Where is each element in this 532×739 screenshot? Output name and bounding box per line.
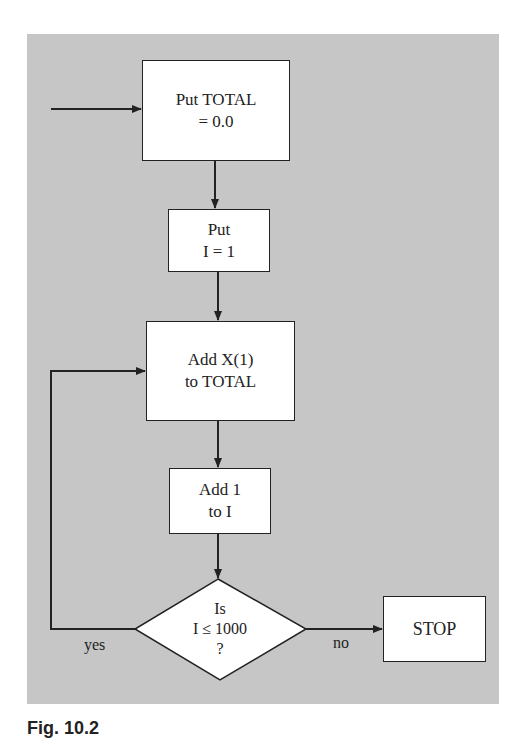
node-stop: STOP <box>383 596 486 662</box>
node-init-total-line2: = 0.0 <box>198 111 233 133</box>
edge-label-no: no <box>333 634 349 652</box>
figure-caption: Fig. 10.2 <box>27 718 99 739</box>
node-inc-i-line2: to I <box>208 501 231 523</box>
node-add-x-line1: Add X(1) <box>188 349 254 371</box>
arrow-yes-loop <box>51 371 145 629</box>
node-init-i-line1: Put <box>208 219 231 241</box>
node-init-total: Put TOTAL = 0.0 <box>142 60 290 161</box>
node-decision-text: Is I ≤ 1000 ? <box>170 599 270 659</box>
edge-label-yes: yes <box>84 636 105 654</box>
node-stop-label: STOP <box>413 618 457 640</box>
node-add-x: Add X(1) to TOTAL <box>146 321 295 421</box>
node-decision-line2: I ≤ 1000 <box>170 619 270 639</box>
node-decision-line3: ? <box>170 639 270 659</box>
node-add-x-line2: to TOTAL <box>185 371 256 393</box>
node-inc-i: Add 1 to I <box>169 468 271 534</box>
node-init-i: Put I = 1 <box>168 209 270 272</box>
node-decision-line1: Is <box>170 599 270 619</box>
node-inc-i-line1: Add 1 <box>199 479 241 501</box>
node-init-i-line2: I = 1 <box>203 241 235 263</box>
node-init-total-line1: Put TOTAL <box>176 89 257 111</box>
